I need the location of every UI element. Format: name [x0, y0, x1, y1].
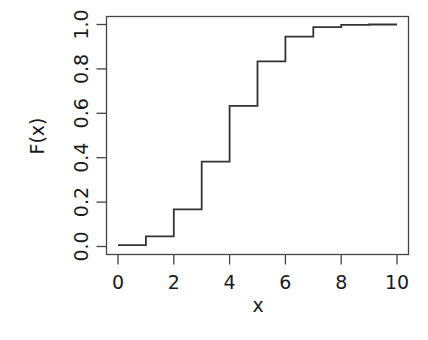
- x-axis-title: x: [252, 294, 263, 316]
- x-tick-label: 8: [335, 271, 347, 293]
- y-axis-title: F(x): [26, 118, 48, 155]
- y-tick-label: 0.2: [70, 187, 92, 217]
- x-tick-label: 4: [224, 271, 236, 293]
- x-tick-label: 2: [168, 271, 180, 293]
- y-tick-label: 0.6: [70, 98, 92, 128]
- y-axis: 0.00.20.40.60.81.0: [70, 9, 107, 261]
- y-tick-label: 0.0: [70, 231, 92, 261]
- plot-frame: [107, 17, 409, 255]
- cdf-step-line: [118, 25, 397, 246]
- x-tick-label: 0: [112, 271, 124, 293]
- x-axis: 0246810: [112, 255, 409, 294]
- x-tick-label: 6: [279, 271, 291, 293]
- cdf-step-chart: 0.00.20.40.60.81.0 0246810 x F(x): [0, 0, 428, 340]
- x-tick-label: 10: [385, 271, 409, 293]
- y-tick-label: 0.4: [70, 143, 92, 173]
- y-tick-label: 1.0: [70, 9, 92, 39]
- y-tick-label: 0.8: [70, 54, 92, 84]
